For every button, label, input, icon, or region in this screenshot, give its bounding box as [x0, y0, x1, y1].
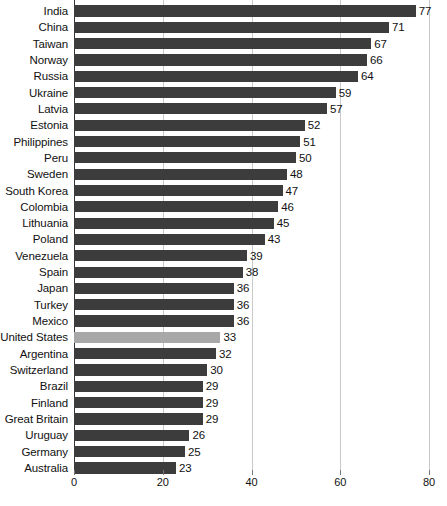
- bar-row: 50: [74, 150, 447, 166]
- bar-row: 36: [74, 280, 447, 296]
- category-label: Spain: [0, 264, 68, 280]
- bar: [74, 201, 278, 212]
- bar: [74, 315, 234, 326]
- bar-value-label: 77: [419, 3, 432, 19]
- category-label: Venezuela: [0, 248, 68, 264]
- category-label: Germany: [0, 444, 68, 460]
- category-label: Switzerland: [0, 362, 68, 378]
- bar-value-label: 66: [370, 52, 383, 68]
- category-label: Finland: [0, 395, 68, 411]
- bar: [74, 152, 296, 163]
- bar-value-label: 29: [206, 378, 219, 394]
- bar-value-label: 48: [290, 166, 303, 182]
- category-label: India: [0, 3, 68, 19]
- category-label: United States: [0, 329, 68, 345]
- bar-highlighted: [74, 332, 220, 343]
- bar-row: 36: [74, 297, 447, 313]
- category-label: Turkey: [0, 297, 68, 313]
- category-label: Australia: [0, 460, 68, 476]
- bar: [74, 462, 176, 473]
- bar: [74, 136, 300, 147]
- category-label: South Korea: [0, 183, 68, 199]
- bar: [74, 348, 216, 359]
- bar-row: 59: [74, 85, 447, 101]
- tick-mark-20: [163, 470, 164, 475]
- bar-row: 29: [74, 378, 447, 394]
- bar: [74, 397, 203, 408]
- bar-row: 43: [74, 231, 447, 247]
- bar-row: 47: [74, 183, 447, 199]
- x-tick-label: 0: [59, 476, 89, 488]
- bar-value-label: 64: [361, 68, 374, 84]
- bar: [74, 120, 305, 131]
- tick-mark-0: [74, 470, 75, 475]
- bar-value-label: 25: [188, 444, 201, 460]
- bar: [74, 250, 247, 261]
- bar-row: 52: [74, 117, 447, 133]
- bar-row: 32: [74, 346, 447, 362]
- bar-row: 36: [74, 313, 447, 329]
- bar-row: 46: [74, 199, 447, 215]
- category-label: Uruguay: [0, 427, 68, 443]
- bar-value-label: 46: [281, 199, 294, 215]
- category-label: Japan: [0, 280, 68, 296]
- bar: [74, 5, 416, 16]
- bar-row: 38: [74, 264, 447, 280]
- bar-row: 71: [74, 19, 447, 35]
- x-tick-label: 40: [237, 476, 267, 488]
- bar-row: 29: [74, 395, 447, 411]
- bar-value-label: 57: [330, 101, 343, 117]
- bar-value-label: 33: [223, 329, 236, 345]
- category-label: Philippines: [0, 134, 68, 150]
- bar-row: 51: [74, 134, 447, 150]
- tick-mark-80: [429, 470, 430, 475]
- bar: [74, 218, 274, 229]
- bar: [74, 299, 234, 310]
- bar-row: 26: [74, 427, 447, 443]
- bar-row: 23: [74, 460, 447, 476]
- bar-value-label: 45: [277, 215, 290, 231]
- bar-value-label: 36: [237, 297, 250, 313]
- category-label: Great Britain: [0, 411, 68, 427]
- category-label: Estonia: [0, 117, 68, 133]
- bar-value-label: 47: [286, 183, 299, 199]
- x-tick-label: 80: [414, 476, 444, 488]
- bar: [74, 22, 389, 33]
- bar: [74, 54, 367, 65]
- category-label: Brazil: [0, 378, 68, 394]
- bar: [74, 413, 203, 424]
- bar: [74, 446, 185, 457]
- bar: [74, 364, 207, 375]
- bar-value-label: 52: [308, 117, 321, 133]
- bar-value-label: 43: [268, 231, 281, 247]
- category-label: Mexico: [0, 313, 68, 329]
- bar-row: 64: [74, 68, 447, 84]
- bar: [74, 103, 327, 114]
- bar-value-label: 67: [374, 36, 387, 52]
- bar-value-label: 38: [246, 264, 259, 280]
- bar: [74, 430, 189, 441]
- category-label: Poland: [0, 231, 68, 247]
- bar-value-label: 29: [206, 395, 219, 411]
- bar: [74, 381, 203, 392]
- bar: [74, 185, 283, 196]
- bar-row: 48: [74, 166, 447, 182]
- tick-mark-60: [340, 470, 341, 475]
- bar: [74, 38, 371, 49]
- category-label: Argentina: [0, 346, 68, 362]
- bar: [74, 169, 287, 180]
- category-label: Norway: [0, 52, 68, 68]
- bar-value-label: 30: [210, 362, 223, 378]
- bar-row: 45: [74, 215, 447, 231]
- category-label: Colombia: [0, 199, 68, 215]
- category-label: Peru: [0, 150, 68, 166]
- bar: [74, 87, 336, 98]
- bar-value-label: 32: [219, 346, 232, 362]
- bar-row: 30: [74, 362, 447, 378]
- bar-value-label: 51: [303, 134, 316, 150]
- bar-row: 57: [74, 101, 447, 117]
- bar: [74, 267, 243, 278]
- bar-value-label: 50: [299, 150, 312, 166]
- bar-row: 67: [74, 36, 447, 52]
- bar-row: 66: [74, 52, 447, 68]
